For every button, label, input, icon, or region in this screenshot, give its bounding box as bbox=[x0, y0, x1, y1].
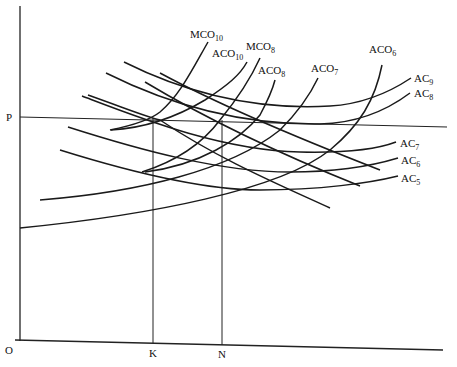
curve-labels-group: AC9AC8AC7AC6AC5ACO10ACO8ACO7ACO6MCO10MCO… bbox=[190, 28, 433, 187]
aco8-label: ACO8 bbox=[258, 64, 285, 79]
aco6-curve bbox=[20, 65, 382, 228]
curves-group bbox=[20, 42, 411, 228]
mco10-label: MCO10 bbox=[190, 28, 223, 43]
ac7-label: AC7 bbox=[400, 137, 419, 152]
k-label: K bbox=[149, 347, 157, 359]
mco8-curve bbox=[142, 58, 260, 172]
ac6-curve bbox=[68, 127, 398, 172]
aco6-label: ACO6 bbox=[369, 43, 396, 58]
origin-label: O bbox=[5, 344, 13, 356]
ac8-label: AC8 bbox=[414, 87, 433, 102]
price-line bbox=[20, 117, 447, 127]
aco7-label: ACO7 bbox=[311, 62, 338, 77]
ac6-label: AC6 bbox=[401, 154, 420, 169]
n-label: N bbox=[218, 348, 226, 360]
ac5-curve bbox=[60, 150, 398, 190]
ac5-label: AC5 bbox=[401, 172, 420, 187]
aco10-label: ACO10 bbox=[212, 47, 243, 62]
mco10-curve bbox=[110, 42, 208, 130]
x-axis bbox=[15, 340, 443, 350]
ac9-label: AC9 bbox=[414, 72, 433, 87]
cost-curves-diagram: AC9AC8AC7AC6AC5ACO10ACO8ACO7ACO6MCO10MCO… bbox=[0, 0, 457, 367]
mco8-label: MCO8 bbox=[246, 40, 275, 55]
price-label: P bbox=[6, 111, 12, 123]
